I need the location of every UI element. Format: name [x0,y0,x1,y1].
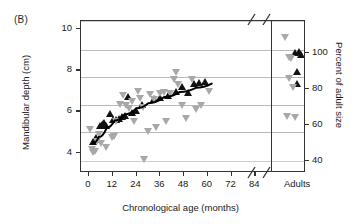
y2-axis-tick [305,52,309,53]
y-axis-tick-label: 8 [46,63,72,74]
y2-axis-tick-label: 100 [312,46,328,57]
y-axis-tick-label: 10 [46,22,72,33]
y-axis-tick [76,152,80,153]
x-axis-tick [112,172,113,176]
y2-axis-title: Percent of adult size [334,42,345,128]
y2-axis-tick [305,160,309,161]
y-axis-tick-label: 6 [46,104,72,115]
y2-axis-tick-label: 60 [312,118,323,129]
x-axis-tick-label: 60 [194,178,220,189]
y2-axis-tick [305,88,309,89]
y2-axis-tick-label: 80 [312,82,323,93]
x-axis-tick [88,172,89,176]
y2-axis-tick-label: 40 [312,154,323,165]
x-axis-tick [159,172,160,176]
x-axis-tick-label: 0 [75,178,101,189]
x-axis-title: Chronological age (months) [0,202,361,213]
panel-label: (B) [14,14,28,25]
x-axis-tick [136,172,137,176]
x-axis-tick-label: 36 [146,178,172,189]
x-axis-tick-label: 48 [170,178,196,189]
y-axis-tick [76,69,80,70]
x-axis-tick-label: 72 [218,178,244,189]
x-axis-tick [231,172,232,176]
figure-panel-b: (B) 46810 406080100 012243648607284Adult… [0,0,361,224]
x-axis-category-label-adults: Adults [275,178,319,189]
plot-frame [80,20,305,172]
axis-break-icon-right [262,13,271,26]
x-axis-tick [207,172,208,176]
y2-axis-tick [305,124,309,125]
x-axis-tick [254,172,255,176]
x-axis-tick-label: 24 [123,178,149,189]
x-axis-tick-label: 12 [99,178,125,189]
axis-break-icon-left [247,13,256,26]
x-axis-tick-label: 84 [241,178,267,189]
x-axis-tick [183,172,184,176]
y-axis-tick-label: 4 [46,146,72,157]
y-axis-tick [76,28,80,29]
growth-fit-curve [81,21,306,173]
y-axis-title: Mandibular depth (cm) [20,55,31,150]
y-axis-tick [76,110,80,111]
